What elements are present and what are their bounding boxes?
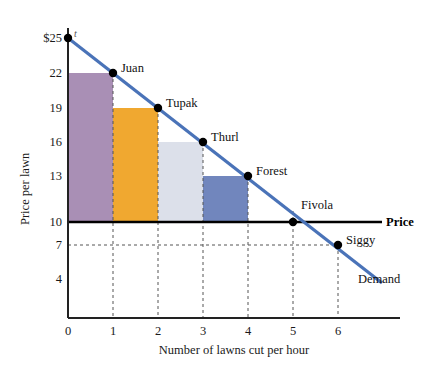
- juan-bar: [68, 73, 113, 222]
- y-tick-4: 4: [10, 272, 62, 287]
- y-tick-22: 22: [10, 66, 62, 81]
- axis-t-marker: t: [74, 28, 77, 39]
- point-forest: [244, 172, 252, 180]
- y-axis-title: Price per lawn: [18, 153, 33, 225]
- point-thurl: [199, 138, 207, 146]
- x-tick-6: 6: [326, 324, 350, 339]
- label-thurl: Thurl: [211, 130, 239, 145]
- label-fivola: Fivola: [301, 198, 333, 213]
- y-tick-7: 7: [10, 238, 62, 253]
- x-tick-0: 0: [56, 324, 80, 339]
- price-line-label: Price: [386, 215, 414, 230]
- point-tupak: [154, 104, 162, 112]
- label-tupak: Tupak: [166, 96, 198, 111]
- x-tick-4: 4: [236, 324, 260, 339]
- label-juan: Juan: [121, 61, 144, 76]
- x-axis-title: Number of lawns cut per hour: [124, 343, 344, 358]
- point-origin: [64, 34, 72, 42]
- demand-curve-chart: $25 22 19 16 13 10 7 4 0 1 2 3 4 5 6 t J…: [0, 0, 434, 368]
- y-tick-19: 19: [10, 101, 62, 116]
- x-tick-2: 2: [146, 324, 170, 339]
- demand-line-label: Demand: [358, 272, 400, 287]
- point-juan: [109, 69, 117, 77]
- point-siggy: [334, 241, 342, 249]
- y-tick-16: 16: [10, 135, 62, 150]
- point-fivola: [289, 218, 297, 226]
- label-forest: Forest: [256, 164, 287, 179]
- x-tick-1: 1: [101, 324, 125, 339]
- x-tick-3: 3: [191, 324, 215, 339]
- x-tick-5: 5: [281, 324, 305, 339]
- label-siggy: Siggy: [346, 233, 375, 248]
- chart-canvas: [0, 0, 434, 368]
- y-tick-25: $25: [10, 31, 62, 46]
- forest-bar: [203, 176, 248, 222]
- tupak-bar: [113, 108, 158, 222]
- thurl-bar: [158, 142, 203, 222]
